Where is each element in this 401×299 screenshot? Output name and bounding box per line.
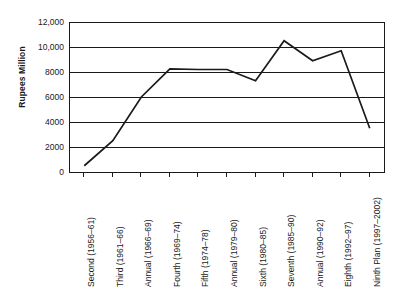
x-axis-tick	[369, 173, 370, 177]
x-axis-tick	[197, 173, 198, 177]
x-axis-tick	[340, 173, 341, 177]
x-axis-tick	[83, 173, 84, 177]
x-axis-tick-label: Fifth (1974–78)	[201, 229, 210, 287]
x-axis-tick	[140, 173, 141, 177]
x-axis-tick-label: Eighth (1992–97)	[344, 222, 353, 287]
x-axis-tick-label: Seventh (1985–90)	[287, 215, 296, 287]
y-axis-tick-label: 12,000	[26, 18, 64, 27]
plot-area	[69, 22, 385, 173]
gridline	[70, 22, 384, 23]
x-axis-tick-label: Fourth (1969–74)	[173, 221, 182, 287]
gridline	[70, 47, 384, 48]
gridline	[70, 147, 384, 148]
y-axis-tick-label: 2000	[26, 143, 64, 152]
x-axis-tick	[283, 173, 284, 177]
y-axis-tick-label: 8000	[26, 68, 64, 77]
x-axis-tick-label: Annual (1979–80)	[230, 219, 239, 287]
x-axis-tick	[226, 173, 227, 177]
x-axis-tick	[169, 173, 170, 177]
line-chart: Rupees Million 0200040006000800010,00012…	[0, 0, 401, 299]
y-axis-tick-label: 6000	[26, 93, 64, 102]
x-axis-tick-label: Second (1956–61)	[87, 217, 96, 287]
y-axis-tick-label: 4000	[26, 118, 64, 127]
gridline	[70, 97, 384, 98]
y-axis-tick-label: 10,000	[26, 43, 64, 52]
x-axis-tick-label: Ninth Plan (1997–2002)	[373, 197, 382, 287]
y-axis-tick-label: 0	[26, 168, 64, 177]
x-axis-tick-label: Annual (1990–92)	[316, 219, 325, 287]
gridline	[70, 72, 384, 73]
x-axis-tick	[112, 173, 113, 177]
x-axis-tick	[312, 173, 313, 177]
y-axis-tick-labels: 0200040006000800010,00012,000	[26, 0, 64, 299]
gridline	[70, 122, 384, 123]
x-axis-tick	[255, 173, 256, 177]
x-axis-tick-label: Annual (1966–69)	[144, 219, 153, 287]
x-axis-tick-label: Third (1961–66)	[116, 227, 125, 287]
x-axis-tick-label: Sixth (1980–85)	[259, 227, 268, 287]
